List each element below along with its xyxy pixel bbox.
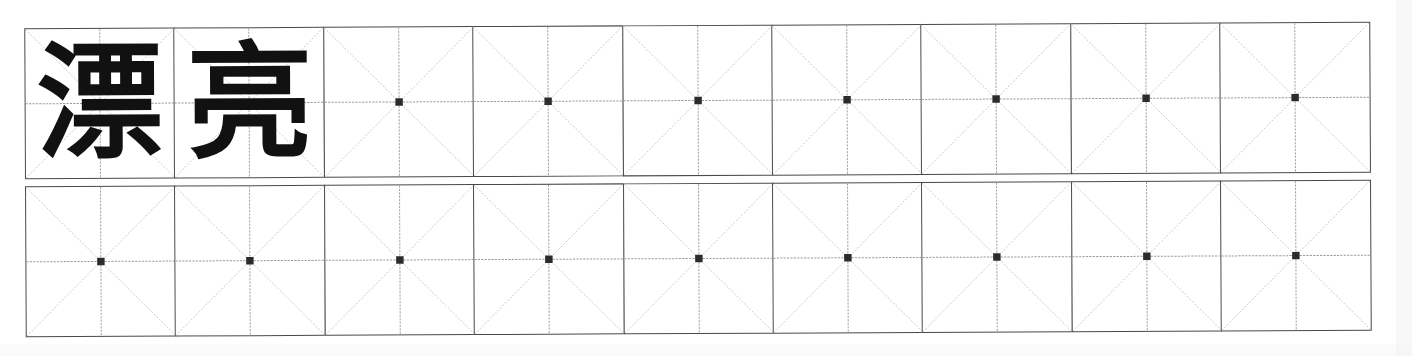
grid-cell[interactable] (772, 182, 924, 334)
grid-cell[interactable] (25, 186, 177, 338)
empty-practice-slot (624, 184, 774, 334)
model-character: 亮 (175, 28, 325, 179)
empty-practice-slot (325, 185, 475, 335)
empty-practice-slot (324, 27, 474, 178)
empty-practice-slot (773, 183, 923, 333)
grid-cell[interactable]: 漂 (24, 28, 176, 180)
grid-cell[interactable] (623, 183, 775, 335)
empty-practice-slot (26, 187, 176, 337)
empty-practice-slot (1221, 181, 1371, 331)
grid-cell[interactable] (921, 23, 1073, 175)
empty-practice-slot (474, 184, 624, 334)
grid-cell[interactable] (323, 26, 475, 178)
grid-cell[interactable]: 亮 (174, 27, 326, 179)
grid-cell[interactable] (622, 25, 774, 177)
grid-cell[interactable] (921, 181, 1073, 333)
empty-practice-slot (1072, 181, 1222, 331)
empty-practice-slot (922, 182, 1072, 332)
empty-practice-slot (473, 26, 623, 177)
worksheet-sheet: 漂亮 (0, 0, 1412, 356)
grid-cell[interactable] (1070, 22, 1222, 174)
empty-practice-slot (175, 186, 325, 336)
character-grid-row-2 (25, 180, 1370, 338)
model-character: 漂 (25, 29, 175, 180)
empty-practice-slot (1071, 23, 1221, 174)
character-grid-row-1: 漂亮 (24, 22, 1369, 180)
grid-cell[interactable] (1071, 180, 1223, 332)
grid-cell[interactable] (771, 24, 923, 176)
grid-cell[interactable] (174, 185, 326, 337)
empty-practice-slot (623, 26, 773, 177)
empty-practice-slot (772, 25, 922, 176)
practice-worksheet: 漂亮 (0, 0, 1412, 356)
empty-practice-slot (922, 24, 1072, 175)
grid-cell[interactable] (472, 25, 624, 177)
grid-cell[interactable] (324, 184, 476, 336)
grid-cell[interactable] (1219, 22, 1371, 174)
grid-cell[interactable] (473, 183, 625, 335)
empty-practice-slot (1220, 23, 1370, 174)
grid-cell[interactable] (1220, 180, 1372, 332)
